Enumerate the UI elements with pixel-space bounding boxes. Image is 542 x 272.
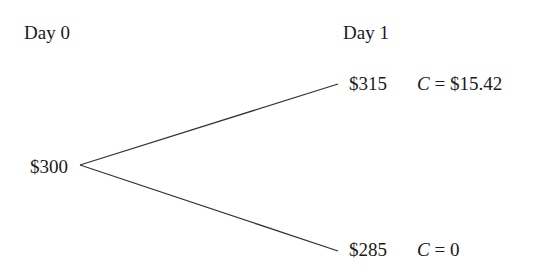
binomial-tree-branches xyxy=(0,0,542,272)
option-equation: = 0 xyxy=(430,239,460,260)
root-price: $300 xyxy=(30,157,68,176)
down-price: $285 xyxy=(349,240,387,259)
option-variable: C xyxy=(417,73,430,94)
down-branch xyxy=(80,165,338,251)
option-equation: = $15.42 xyxy=(430,73,502,94)
option-variable: C xyxy=(417,239,430,260)
up-price: $315 xyxy=(349,74,387,93)
up-branch xyxy=(80,84,338,165)
down-option-value: C = 0 xyxy=(417,240,459,259)
up-option-value: C = $15.42 xyxy=(417,74,502,93)
